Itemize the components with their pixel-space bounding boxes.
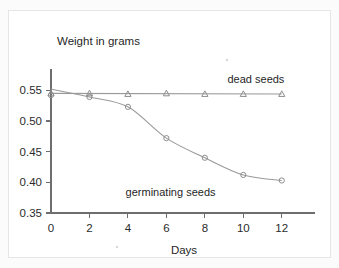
- x-tick-label: 2: [86, 222, 92, 234]
- y-tick-label: 0.55: [20, 84, 42, 96]
- scan-speck: [226, 59, 228, 61]
- x-axis-label: Days: [171, 244, 197, 256]
- x-tick-label: 8: [202, 222, 208, 234]
- scan-speck: [116, 246, 118, 248]
- chart-card: 0.350.400.450.500.55 024681012 Weight in…: [8, 10, 331, 258]
- series-line-germinating-seeds: [51, 89, 282, 180]
- y-tick-label: 0.45: [20, 146, 42, 158]
- dead-seeds-annotation: dead seeds: [227, 73, 284, 85]
- x-axis-ticks: 024681012: [48, 213, 288, 234]
- y-tick-label: 0.50: [20, 115, 42, 127]
- y-tick-label: 0.35: [20, 207, 42, 219]
- weight-vs-days-line-chart: 0.350.400.450.500.55 024681012 Weight in…: [9, 11, 330, 257]
- x-tick-label: 4: [125, 222, 132, 234]
- markers-group: [48, 90, 285, 183]
- y-axis-ticks: 0.350.400.450.500.55: [20, 84, 51, 219]
- series-group: [51, 89, 282, 180]
- y-axis-label: Weight in grams: [57, 35, 140, 47]
- x-tick-label: 12: [275, 222, 288, 234]
- data-point-marker: [163, 90, 169, 96]
- x-tick-label: 6: [163, 222, 169, 234]
- germinating-seeds-annotation: germinating seeds: [126, 186, 216, 198]
- x-tick-label: 0: [48, 222, 54, 234]
- figure-root: 0.350.400.450.500.55 024681012 Weight in…: [0, 0, 339, 268]
- x-tick-label: 10: [237, 222, 250, 234]
- series-line-dead-seeds: [51, 93, 282, 94]
- y-tick-label: 0.40: [20, 176, 42, 188]
